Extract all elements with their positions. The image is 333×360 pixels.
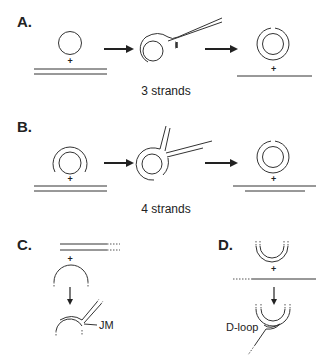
four-strand-intermediate: [136, 126, 212, 180]
plus-sign: +: [271, 174, 276, 184]
panel-d: D. + D-loop: [218, 236, 316, 355]
circular-dsdna-inner: [263, 147, 284, 168]
panel-c-label: C.: [17, 236, 32, 253]
plus-sign: +: [68, 174, 73, 184]
displaced-strand-squiggle: [175, 42, 178, 48]
panel-c: C. + JM: [17, 236, 120, 336]
panel-a-label: A.: [17, 13, 32, 30]
duplex-arc-outer: [256, 246, 288, 262]
plus-sign: +: [271, 64, 276, 74]
panel-a-caption: 3 strands: [141, 84, 190, 98]
jm-annotation: JM: [99, 319, 114, 331]
duplex-arc-inner: [260, 246, 284, 258]
panel-b-caption: 4 strands: [141, 202, 190, 216]
strand-exchange-diagram: A. + + 3 strands B. +: [0, 0, 333, 360]
panel-b: B. + + 4 strands: [17, 118, 316, 216]
circular-ssdna: [59, 32, 82, 55]
panel-d-label: D.: [218, 236, 233, 253]
circular-dsdna-inner: [263, 34, 284, 55]
plus-sign: +: [68, 56, 73, 66]
gapped-circle-outer-arc: [53, 147, 87, 172]
gapped-circle-inner: [59, 152, 81, 174]
joint-molecule: [56, 299, 103, 336]
circular-dsdna-outer-nicked: [257, 28, 289, 60]
panel-a: A. + + 3 strands: [17, 13, 312, 98]
ssdna-arc: [54, 265, 88, 282]
panel-b-label: B.: [17, 118, 32, 135]
three-strand-intermediate: [140, 18, 222, 62]
plus-sign: +: [68, 254, 73, 264]
jm-pointer-line: [84, 324, 97, 325]
plus-sign: +: [271, 264, 276, 274]
circular-dsdna-outer: [257, 141, 289, 173]
d-loop-annotation: D-loop: [226, 321, 258, 333]
